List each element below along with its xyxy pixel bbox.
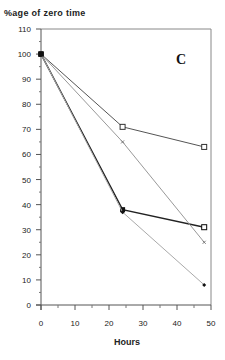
y-tick-label: 50 xyxy=(22,176,31,185)
y-tick-label: 0 xyxy=(27,301,32,310)
y-tick-label: 60 xyxy=(22,150,31,159)
x-tick-label: 40 xyxy=(173,319,182,328)
x-tick-label: 30 xyxy=(139,319,148,328)
y-tick-label: 20 xyxy=(22,251,31,260)
open-square-marker xyxy=(202,144,207,149)
y-tick-label: 30 xyxy=(22,226,31,235)
open-square-marker xyxy=(202,225,207,230)
x-tick-label: 0 xyxy=(39,319,44,328)
series-line xyxy=(41,54,204,285)
x-tick-label: 50 xyxy=(207,319,216,328)
line-chart: 010203040506070809010011001020304050 xyxy=(0,0,225,360)
x-tick-label: 10 xyxy=(71,319,80,328)
y-tick-label: 70 xyxy=(22,125,31,134)
y-tick-label: 10 xyxy=(22,276,31,285)
y-tick-label: 90 xyxy=(22,75,31,84)
y-tick-label: 80 xyxy=(22,100,31,109)
open-square-marker xyxy=(120,124,125,129)
start-marker xyxy=(39,52,44,57)
y-tick-label: 110 xyxy=(18,25,31,34)
x-tick-label: 20 xyxy=(105,319,114,328)
y-tick-label: 40 xyxy=(22,201,31,210)
y-tick-label: 100 xyxy=(18,50,32,59)
